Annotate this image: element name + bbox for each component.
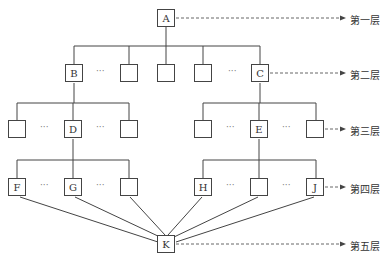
ellipsis: ···: [96, 66, 105, 76]
node-h: H: [194, 178, 212, 196]
node-d: D: [64, 120, 82, 138]
node-g: G: [64, 178, 82, 196]
node-a: A: [157, 9, 175, 27]
level-label-2: 第二层: [350, 67, 380, 82]
node-e: E: [250, 120, 268, 138]
ellipsis: ···: [282, 180, 291, 190]
ellipsis: ···: [226, 180, 235, 190]
level-label-4: 第四层: [350, 181, 380, 196]
node-blank: [250, 178, 268, 196]
ellipsis: ···: [40, 122, 49, 132]
node-f: F: [8, 178, 26, 196]
node-blank: [194, 120, 212, 138]
node-b: B: [65, 64, 83, 82]
ellipsis: ···: [40, 180, 49, 190]
level-label-1: 第一层: [350, 12, 380, 27]
node-c: C: [251, 64, 269, 82]
ellipsis: ···: [226, 122, 235, 132]
node-blank: [194, 64, 212, 82]
node-blank: [120, 120, 138, 138]
node-blank: [157, 64, 175, 82]
node-blank: [306, 120, 324, 138]
ellipsis: ···: [282, 122, 291, 132]
node-j: J: [306, 178, 324, 196]
level-label-3: 第三层: [350, 123, 380, 138]
node-blank: [8, 120, 26, 138]
ellipsis: ···: [96, 180, 105, 190]
node-k: K: [157, 235, 175, 253]
ellipsis: ···: [228, 66, 237, 76]
node-blank: [120, 64, 138, 82]
ellipsis: ···: [96, 122, 105, 132]
level-label-5: 第五层: [350, 238, 380, 253]
node-blank: [120, 178, 138, 196]
